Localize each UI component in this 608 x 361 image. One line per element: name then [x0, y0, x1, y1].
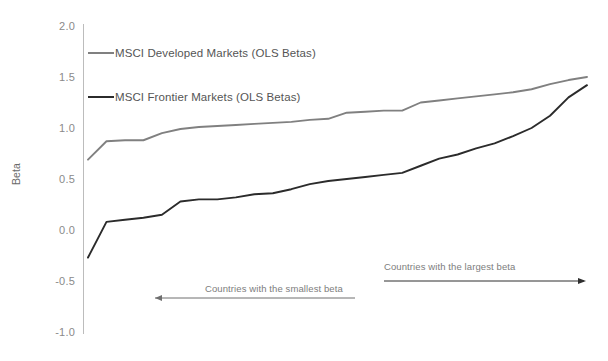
beta-line-chart: Beta 2.0 1.5 1.0 0.5 0.0 -0.5 -1.0 MSCI … [0, 0, 608, 361]
legend-swatch-developed [88, 52, 114, 54]
annotation-label-smallest-beta: Countries with the smallest beta [205, 283, 343, 294]
annotation-label-largest-beta: Countries with the largest beta [384, 261, 515, 272]
legend-label-frontier: MSCI Frontier Markets (OLS Betas) [115, 91, 300, 103]
line-series-developed-markets [88, 77, 587, 160]
legend-item-frontier-markets[interactable]: MSCI Frontier Markets (OLS Betas) [88, 91, 300, 103]
legend-item-developed-markets[interactable]: MSCI Developed Markets (OLS Betas) [88, 47, 316, 59]
line-series-frontier-markets [88, 85, 587, 257]
legend-label-developed: MSCI Developed Markets (OLS Betas) [115, 47, 316, 59]
legend-swatch-frontier [88, 96, 114, 98]
annotation-arrow-smallest-beta [155, 295, 355, 301]
annotation-arrow-largest-beta [384, 278, 586, 284]
